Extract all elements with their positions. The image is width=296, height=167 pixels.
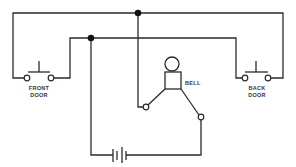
top-wire <box>13 13 283 78</box>
circuit-diagram <box>0 0 296 167</box>
front-door-terminal-left <box>24 75 30 81</box>
front-door-label: FRONT DOOR <box>24 85 54 98</box>
junction-top <box>135 10 142 17</box>
second-wire <box>50 38 244 78</box>
back-door-terminal-right <box>265 75 271 81</box>
bell-contact-left <box>143 104 149 110</box>
bell-contact-right <box>198 114 204 120</box>
front-door-terminal-right <box>48 75 54 81</box>
battery-icon <box>113 147 126 163</box>
bell-icon <box>143 57 204 120</box>
battery-wire <box>91 38 201 155</box>
bell-label: BELL <box>185 80 201 87</box>
back-door-label: BACK DOOR <box>242 85 272 98</box>
front-door-label-line2: DOOR <box>24 92 54 99</box>
back-door-switch <box>242 61 271 81</box>
junction-second <box>88 35 95 42</box>
bell-feed-wire <box>138 13 143 107</box>
back-door-terminal-left <box>242 75 248 81</box>
front-door-switch <box>24 61 54 81</box>
back-door-label-line2: DOOR <box>242 92 272 99</box>
